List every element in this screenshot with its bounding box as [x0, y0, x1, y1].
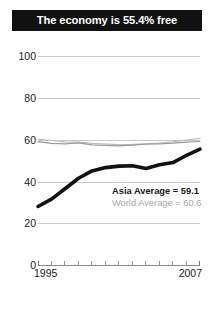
annotation-asia-average: Asia Average = 59.1	[112, 186, 210, 198]
legend-annotations: Asia Average = 59.1 World Average = 60.6	[112, 186, 210, 210]
annotation-world-average: World Average = 60.6	[112, 198, 210, 210]
series-layer	[0, 0, 213, 309]
chart-root: The economy is 55.4% free 100 80 60 40 2…	[0, 0, 213, 309]
